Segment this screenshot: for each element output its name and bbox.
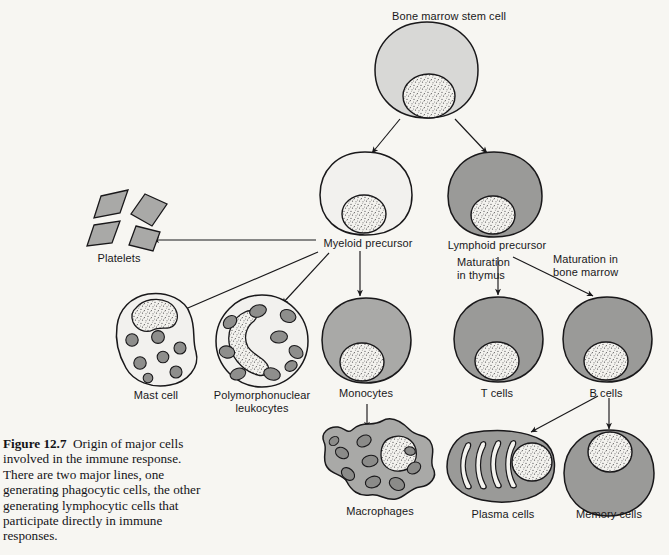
label-memory-cells: Memory cells [576, 508, 642, 521]
cell-plasma-cells [447, 431, 554, 502]
nucleus [340, 343, 384, 381]
figure-caption: Figure 12.7 Origin of major cells involv… [3, 436, 211, 544]
cell-stem-cell [375, 22, 478, 118]
label-monocytes: Monocytes [339, 387, 393, 400]
platelet [94, 190, 128, 218]
figure-12-7: Bone marrow stem cell Myeloid precursor … [0, 0, 669, 555]
label-b-cells: B cells [589, 387, 622, 400]
label-lymphoid-precursor: Lymphoid precursor [448, 239, 547, 252]
label-plasma-cells: Plasma cells [472, 508, 535, 521]
figure-number: Figure 12.7 [3, 436, 67, 451]
arrow-stem-to-myeloid [372, 119, 400, 153]
nucleus [584, 342, 628, 380]
cell-pmn-leukocytes [216, 295, 308, 387]
annotation-maturation-bone-marrow: Maturation in bone marrow [553, 253, 618, 278]
platelet [87, 221, 120, 246]
label-platelets: Platelets [97, 252, 140, 265]
caption-text: Origin of major cells involved in the im… [3, 436, 200, 543]
arrow-stem-to-lymphoid [455, 119, 487, 153]
cell-lymphoid-precursor [448, 152, 542, 237]
cell-b-cells [563, 297, 652, 382]
label-mast-cell: Mast cell [134, 389, 178, 402]
nucleus [588, 432, 632, 472]
cell-platelets [87, 190, 167, 251]
label-myeloid-precursor: Myeloid precursor [323, 237, 412, 250]
cell-macrophages [323, 419, 435, 499]
nucleus [475, 342, 519, 380]
nucleus [342, 195, 386, 233]
nucleus [512, 443, 552, 481]
annotation-maturation-thymus: Maturation in thymus [457, 256, 510, 281]
arrow-bcell-to-plasma [531, 396, 598, 432]
label-t-cells: T cells [481, 387, 513, 400]
label-macrophages: Macrophages [346, 505, 414, 518]
cell-t-cells [454, 297, 543, 382]
platelet [131, 194, 167, 226]
cell-monocytes [322, 298, 411, 383]
label-pmn-leukocytes: Polymorphonuclear leukocytes [214, 389, 310, 414]
cell-mast-cell [116, 293, 196, 386]
cell-memory-cells [564, 430, 654, 516]
label-bone-marrow-stem-cell: Bone marrow stem cell [392, 10, 506, 23]
platelet [129, 226, 160, 251]
arrow-myeloid-to-pmn [282, 253, 329, 304]
nucleus [471, 196, 515, 234]
nucleus [403, 74, 455, 118]
cell-myeloid-precursor [320, 152, 412, 235]
